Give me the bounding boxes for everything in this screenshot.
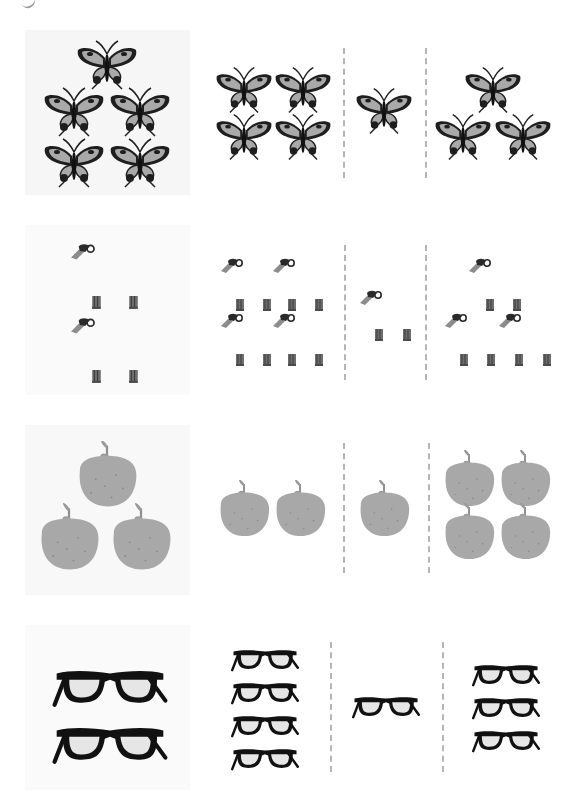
- divider: [344, 245, 346, 380]
- divider: [343, 443, 345, 573]
- faucet-icon: [498, 313, 522, 329]
- divider: [343, 48, 345, 178]
- butterfly-icon: [215, 66, 273, 114]
- butterfly-icon: [355, 87, 413, 135]
- faucet-icon: [70, 317, 96, 335]
- faucet-icon: [444, 313, 468, 329]
- orange-icon: [496, 450, 554, 510]
- boot-icon: [235, 353, 245, 367]
- glasses-icon: [51, 663, 169, 709]
- divider: [425, 48, 427, 178]
- butterfly-icon: [43, 87, 105, 137]
- faucet-icon: [220, 313, 244, 329]
- boot-icon: [287, 298, 297, 312]
- boot-icon: [235, 298, 245, 312]
- option-c-butterflies[interactable]: [432, 60, 572, 170]
- glasses-icon: [231, 678, 299, 706]
- butterfly-icon: [274, 113, 332, 161]
- option-c-faucets[interactable]: [432, 250, 572, 370]
- boot-icon: [91, 369, 102, 384]
- glasses-icon: [231, 744, 299, 772]
- option-a-glasses[interactable]: [225, 640, 325, 775]
- option-c-oranges[interactable]: [438, 445, 578, 570]
- orange-icon: [355, 480, 413, 540]
- glasses-icon: [352, 692, 420, 720]
- faucet-icon: [272, 313, 296, 329]
- boot-icon: [314, 298, 324, 312]
- glasses-icon: [472, 693, 540, 721]
- glasses-icon: [472, 660, 540, 688]
- faucet-icon: [359, 290, 383, 306]
- divider: [330, 642, 332, 772]
- divider: [442, 642, 444, 772]
- reference-panel-oranges: [25, 425, 190, 595]
- faucet-icon: [272, 258, 296, 274]
- corner-scribble: [21, 0, 37, 11]
- boot-icon: [262, 353, 272, 367]
- butterfly-icon: [215, 113, 273, 161]
- divider: [428, 443, 430, 573]
- boot-icon: [542, 353, 552, 367]
- boot-icon: [262, 298, 272, 312]
- butterfly-icon: [109, 138, 171, 188]
- divider: [425, 245, 427, 380]
- orange-icon: [271, 480, 329, 540]
- option-b-faucets[interactable]: [350, 250, 422, 370]
- boot-icon: [514, 353, 524, 367]
- orange-icon: [215, 480, 273, 540]
- butterfly-icon: [274, 66, 332, 114]
- orange-icon: [107, 503, 175, 575]
- option-a-oranges[interactable]: [210, 445, 340, 565]
- reference-panel-faucets: [25, 225, 190, 395]
- option-b-glasses[interactable]: [340, 640, 435, 775]
- reference-panel-glasses: [25, 625, 190, 790]
- faucet-icon: [70, 243, 96, 261]
- boot-icon: [486, 353, 496, 367]
- butterfly-icon: [434, 113, 492, 161]
- glasses-icon: [231, 645, 299, 673]
- glasses-icon: [231, 711, 299, 739]
- faucet-icon: [468, 258, 492, 274]
- boot-icon: [128, 369, 139, 384]
- boot-icon: [512, 298, 522, 312]
- reference-panel-butterflies: [25, 30, 190, 195]
- orange-icon: [35, 503, 103, 575]
- boot-icon: [128, 295, 139, 310]
- orange-icon: [496, 503, 554, 563]
- boot-icon: [287, 353, 297, 367]
- option-b-butterflies[interactable]: [350, 60, 422, 170]
- boot-icon: [91, 295, 102, 310]
- option-b-oranges[interactable]: [350, 445, 425, 565]
- butterfly-icon: [43, 138, 105, 188]
- butterfly-icon: [76, 40, 138, 90]
- boot-icon: [459, 353, 469, 367]
- boot-icon: [374, 328, 384, 342]
- orange-icon: [440, 503, 498, 563]
- orange-icon: [440, 450, 498, 510]
- glasses-icon: [51, 720, 169, 766]
- option-c-glasses[interactable]: [460, 640, 570, 775]
- orange-icon: [73, 441, 141, 511]
- faucet-icon: [220, 258, 244, 274]
- butterfly-icon: [109, 87, 171, 137]
- glasses-icon: [472, 726, 540, 754]
- butterfly-icon: [494, 113, 552, 161]
- option-a-butterflies[interactable]: [210, 60, 340, 170]
- boot-icon: [485, 298, 495, 312]
- butterfly-icon: [464, 66, 522, 114]
- option-a-faucets[interactable]: [210, 250, 340, 370]
- boot-icon: [402, 328, 412, 342]
- boot-icon: [314, 353, 324, 367]
